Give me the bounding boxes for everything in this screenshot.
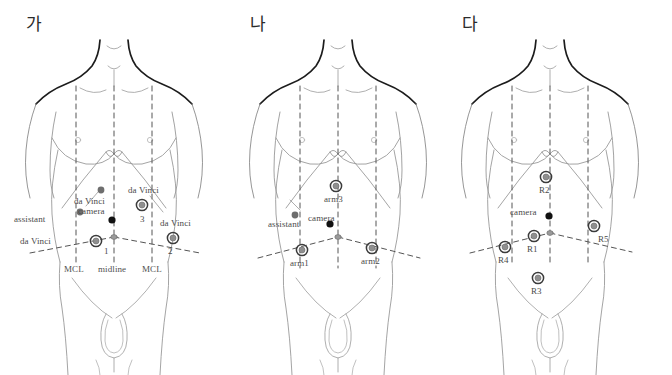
label-R3: R3	[531, 286, 542, 296]
label-R5: R5	[598, 234, 609, 244]
label-assistant: assistant	[14, 214, 45, 224]
port-camera	[545, 212, 552, 219]
port-da-vinci-2	[167, 232, 178, 243]
port-da-vinci-3	[136, 199, 147, 210]
port-R3	[532, 272, 543, 283]
label-da-vinci-2-number: 2	[168, 246, 173, 256]
label-da-vinci-camera-line1: da Vinci	[74, 196, 105, 206]
port-R1	[528, 230, 539, 241]
label-camera: camera	[308, 213, 335, 223]
port-arm3	[330, 180, 341, 191]
panel-c: 다	[448, 0, 672, 375]
figure-root: 가	[0, 0, 672, 375]
label-da-vinci-3-number: 3	[140, 214, 145, 224]
port-R5	[588, 220, 599, 231]
port-R4	[499, 241, 510, 252]
axis-label-mcl-right: MCL	[142, 264, 162, 274]
panel-b-anatomy	[224, 0, 448, 375]
label-da-vinci-1-number: 1	[104, 246, 109, 256]
label-arm1: arm1	[290, 258, 309, 268]
label-arm3: arm3	[324, 194, 343, 204]
label-arm2: arm2	[361, 256, 380, 266]
label-R1: R1	[527, 244, 538, 254]
label-camera: camera	[78, 206, 105, 216]
label-da-vinci-2: da Vinci	[160, 218, 191, 228]
label-assistant: assistant	[268, 219, 299, 229]
axis-label-midline: midline	[98, 264, 126, 274]
port-camera	[108, 216, 115, 223]
label-da-vinci-1: da Vinci	[20, 236, 51, 246]
label-camera: camera	[510, 207, 537, 217]
panel-c-anatomy	[448, 0, 672, 375]
label-R4: R4	[498, 255, 509, 265]
port-assistant	[292, 212, 299, 219]
label-da-vinci-3: da Vinci	[128, 185, 159, 195]
axis-label-mcl-left: MCL	[64, 264, 84, 274]
label-R2: R2	[539, 185, 550, 195]
panel-b: 나	[224, 0, 448, 375]
panel-a: 가	[0, 0, 224, 375]
port-assistant-upper	[98, 187, 105, 194]
panel-a-anatomy	[0, 0, 224, 375]
